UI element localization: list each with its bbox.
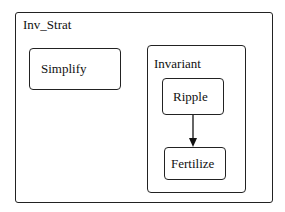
ripple-to-fertilize-arrow (0, 0, 285, 212)
